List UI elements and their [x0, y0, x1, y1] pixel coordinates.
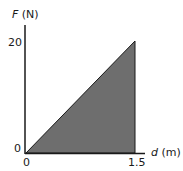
x-axis-unit: (m)	[161, 146, 180, 159]
y-tick-0: 0	[14, 143, 21, 155]
x-axis-label: d (m)	[151, 147, 181, 159]
work-area-triangle	[26, 41, 135, 153]
y-axis-label: F (N)	[12, 9, 39, 21]
force-displacement-chart: F (N) 20 0 0 1.5 d (m)	[0, 0, 183, 171]
x-axis-variable: d	[151, 146, 158, 159]
x-tick-1-5: 1.5	[128, 157, 146, 169]
y-tick-20: 20	[8, 37, 22, 49]
y-axis-variable: F	[12, 8, 18, 21]
x-tick-0: 0	[23, 157, 30, 169]
y-axis-unit: (N)	[22, 8, 39, 21]
